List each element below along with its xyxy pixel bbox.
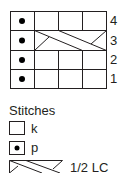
purl-dot-icon xyxy=(19,76,25,82)
legend-label-knit: k xyxy=(31,122,38,135)
row-number: 3 xyxy=(110,34,117,47)
cable-cross-icon xyxy=(10,161,63,174)
legend-label-cable: 1/2 LC xyxy=(70,161,108,173)
knit-square-icon xyxy=(10,122,25,135)
legend-title: Stitches xyxy=(9,104,55,118)
purl-dot-icon xyxy=(19,57,25,63)
purl-dot-icon xyxy=(19,38,25,44)
purl-dot-icon xyxy=(19,18,25,24)
row-number: 2 xyxy=(110,53,117,66)
legend-label-purl: p xyxy=(31,141,38,154)
row-number: 1 xyxy=(110,72,117,85)
row-number: 4 xyxy=(110,14,117,27)
